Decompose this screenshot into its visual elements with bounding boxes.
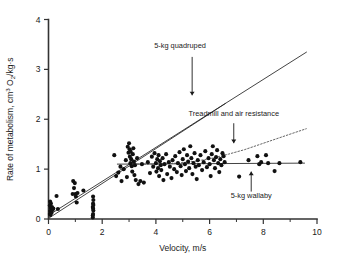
data-point [196, 158, 200, 162]
data-point [206, 156, 210, 160]
data-point [151, 165, 155, 169]
data-point [159, 163, 163, 167]
data-point [184, 169, 188, 173]
metabolism-velocity-chart: 012340246810 5-kg quadrupedTreadmill and… [0, 0, 346, 265]
data-point [157, 153, 161, 157]
data-point [208, 162, 212, 166]
data-point [55, 194, 59, 198]
data-point [190, 172, 194, 176]
data-point [140, 162, 144, 166]
data-point [179, 164, 183, 168]
data-point [186, 160, 190, 164]
data-point [219, 163, 223, 167]
data-point [266, 161, 270, 165]
data-point [217, 170, 221, 174]
data-point [246, 158, 250, 162]
y-tick-label: 0 [36, 214, 41, 224]
data-point [259, 160, 263, 164]
data-point [185, 153, 189, 157]
data-point [74, 195, 78, 199]
data-point [169, 176, 173, 180]
data-point [91, 206, 95, 210]
y-tick-label: 3 [36, 64, 41, 74]
data-point [191, 161, 195, 165]
treadmill-label-arrow-head [231, 140, 236, 144]
data-point [154, 170, 158, 174]
data-point [175, 170, 179, 174]
data-point [71, 179, 75, 183]
data-point [171, 158, 175, 162]
quadruped-label: 5-kg quadruped [154, 41, 206, 50]
data-point [277, 161, 281, 165]
data-point [81, 189, 85, 193]
data-point [264, 153, 268, 157]
data-point [116, 171, 120, 175]
y-tick-label: 1 [36, 164, 41, 174]
data-point [188, 144, 192, 148]
data-point [72, 186, 76, 190]
data-point [91, 203, 95, 207]
data-point [153, 151, 157, 155]
wallaby-label-arrow-head [249, 172, 254, 176]
x-tick-label: 6 [207, 227, 212, 237]
data-point [71, 192, 75, 196]
data-point [48, 199, 52, 203]
wallaby-label: 5-kg wallaby [231, 191, 272, 200]
data-point [134, 178, 138, 182]
data-point [223, 160, 227, 164]
data-point [214, 155, 218, 159]
data-point [197, 163, 201, 167]
data-point [131, 152, 135, 156]
data-point [202, 160, 206, 164]
data-point [75, 200, 79, 204]
data-point [181, 157, 185, 161]
data-point [130, 170, 134, 174]
quadruped-label-arrow-head [190, 92, 195, 96]
data-point [187, 166, 191, 170]
data-point [133, 163, 137, 167]
data-point [91, 213, 95, 217]
data-point [148, 171, 152, 175]
data-point [119, 179, 123, 183]
data-point [112, 153, 116, 157]
data-point [164, 152, 168, 156]
chart-canvas: 012340246810 5-kg quadrupedTreadmill and… [0, 0, 346, 265]
x-tick-label: 8 [261, 227, 266, 237]
scatter-points [48, 141, 303, 219]
y-tick-label: 4 [36, 15, 41, 25]
data-point [114, 174, 118, 178]
data-point [132, 173, 136, 177]
y-tick-label: 2 [36, 114, 41, 124]
data-point [183, 162, 187, 166]
data-point [198, 153, 202, 157]
data-point [131, 146, 135, 150]
x-axis-title: Velocity, m/s [159, 243, 206, 253]
data-point [135, 156, 139, 160]
data-point [180, 173, 184, 177]
data-point [118, 165, 122, 169]
data-point [222, 154, 226, 158]
data-point [125, 175, 129, 179]
data-point [168, 165, 172, 169]
data-point [146, 160, 150, 164]
data-point [56, 207, 60, 211]
data-point [91, 195, 95, 199]
data-point [159, 168, 163, 172]
data-point [165, 172, 169, 176]
data-point [255, 154, 259, 158]
data-point [132, 160, 136, 164]
x-tick-label: 10 [312, 227, 322, 237]
data-point [75, 191, 79, 195]
data-point [203, 149, 207, 153]
x-tick-label: 2 [100, 227, 105, 237]
data-point [161, 178, 165, 182]
data-point [213, 166, 217, 170]
data-point [122, 167, 126, 171]
data-point [189, 156, 193, 160]
data-point [124, 158, 128, 162]
data-point [162, 162, 166, 166]
data-point [273, 169, 277, 173]
data-point [138, 179, 142, 183]
x-tick-label: 0 [46, 227, 51, 237]
data-point [209, 174, 213, 178]
